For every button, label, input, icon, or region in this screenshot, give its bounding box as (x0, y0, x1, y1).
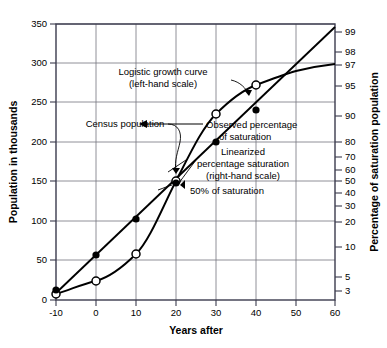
y2-tick-label: 20 (345, 216, 356, 227)
y2-tick-label: 5 (345, 271, 350, 282)
logistic-growth-chart: -10 0 10 20 30 40 50 60 350 300 250 200 … (0, 0, 387, 348)
annotation-line: (left-hand scale) (129, 78, 197, 89)
x-tick-label: 10 (131, 307, 142, 318)
y2-tick-label: 40 (345, 187, 356, 198)
x-tick-label: 40 (251, 307, 262, 318)
y-tick-label: 300 (31, 57, 47, 68)
annotation-fifty-percent-saturation: 50% of saturation (190, 185, 264, 196)
y-tick-label: 50 (36, 254, 47, 265)
y2-tick-label: 60 (345, 164, 356, 175)
x-tick-label: -10 (49, 307, 63, 318)
annotation-census-population: Census population (86, 118, 165, 129)
y2-tick-label: 80 (345, 136, 356, 147)
x-tick-label: 30 (211, 307, 222, 318)
y2-tick-label: 90 (345, 110, 356, 121)
annotation-line: Linearized (221, 146, 265, 157)
y2-tick-label: 97 (345, 59, 356, 70)
y2-tick-label: 3 (345, 285, 350, 296)
annotation-line: percentage saturation (197, 158, 289, 169)
chart-figure: -10 0 10 20 30 40 50 60 350 300 250 200 … (0, 0, 387, 348)
y2-tick-label: 10 (345, 241, 356, 252)
y-tick-label: 250 (31, 96, 47, 107)
annotation-line: Observed percentage (206, 119, 297, 130)
y2-axis-title: Percentage of saturation population (368, 72, 380, 252)
x-axis-title: Years after (169, 324, 223, 336)
y-tick-label: 100 (31, 215, 47, 226)
x-tick-label: 50 (291, 307, 302, 318)
y2-tick-label: 70 (345, 151, 356, 162)
annotation-line: (right-hand scale) (206, 170, 280, 181)
annotation-line: of saturation (219, 131, 271, 142)
x-tick-label: 0 (93, 307, 98, 318)
y2-tick-label: 98 (345, 46, 356, 57)
x-tick-label: 60 (330, 307, 341, 318)
y-tick-label: 150 (31, 175, 47, 186)
y-axis-title: Population in thousands (7, 101, 19, 224)
y-tick-label: 0 (42, 294, 47, 305)
annotation-line: Logistic growth curve (118, 66, 207, 77)
y-tick-label: 350 (31, 18, 47, 29)
y2-tick-label: 95 (345, 80, 356, 91)
y-tick-label: 200 (31, 136, 47, 147)
y2-tick-label: 50 (345, 175, 356, 186)
y2-tick-label: 30 (345, 200, 356, 211)
y2-tick-label: 99 (345, 26, 356, 37)
x-tick-label: 20 (171, 307, 182, 318)
annotation-logistic-growth-curve: Logistic growth curve (left-hand scale) (118, 66, 207, 89)
